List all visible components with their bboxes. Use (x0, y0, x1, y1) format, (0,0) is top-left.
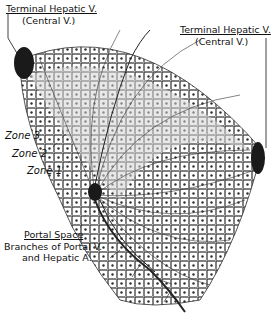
portal-space-label: Portal Space (24, 229, 83, 240)
central-vein-right (251, 142, 265, 174)
central-vein-right-sublabel: (Central V.) (195, 36, 248, 47)
liver-acinus-diagram (0, 0, 271, 318)
zone2-label: Zone 2 (12, 148, 47, 159)
central-vein-left (14, 47, 34, 79)
central-vein-right-label: Terminal Hepatic V. (180, 24, 271, 35)
zone3-label: Zone 3 (5, 130, 40, 141)
central-vein-left-label: Terminal Hepatic V. (6, 3, 97, 14)
zone1-label: Zone 1 (27, 165, 62, 176)
central-vein-left-sublabel: (Central V.) (22, 15, 75, 26)
portal-branches-sublabel: and Hepatic A. (22, 252, 92, 263)
portal-branches-label: Branches of Portal V. (4, 241, 102, 252)
